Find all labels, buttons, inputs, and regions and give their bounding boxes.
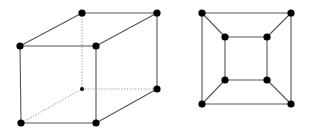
figure-background: [0, 0, 311, 133]
vertex-back-top-right: [153, 9, 160, 16]
vertex-inner-bottom-right: [263, 76, 270, 83]
vertex-front-top-right: [92, 42, 99, 49]
vertex-front-top-left: [16, 42, 23, 49]
vertex-back-top-left: [78, 9, 85, 16]
vertex-outer-bottom-right: [287, 100, 294, 107]
vertex-front-bottom-left: [17, 119, 24, 126]
vertex-front-bottom-right: [92, 119, 99, 126]
cube-diagrams-figure: [0, 0, 311, 133]
vertex-inner-bottom-left: [221, 76, 228, 83]
vertex-outer-top-right: [287, 9, 294, 16]
vertex-back-bottom-left: [80, 87, 84, 91]
vertex-outer-bottom-left: [198, 100, 205, 107]
vertex-outer-top-left: [198, 9, 205, 16]
vertex-inner-top-left: [221, 33, 228, 40]
vertex-inner-top-right: [263, 33, 270, 40]
vertex-back-bottom-right: [153, 85, 160, 92]
